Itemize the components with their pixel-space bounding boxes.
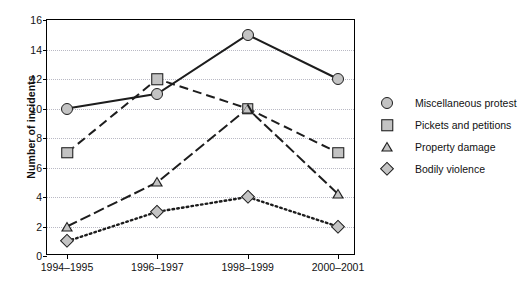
- y-axis-title: Number of incidents: [23, 47, 39, 207]
- y-tick-mark: [43, 138, 47, 139]
- y-tick-label: 8: [36, 132, 42, 144]
- y-tick-label: 12: [30, 73, 42, 85]
- legend-label: Miscellaneous protest: [415, 97, 517, 109]
- y-tick-label: 14: [30, 44, 42, 56]
- data-series-layer: [47, 20, 354, 254]
- series-line-square: [67, 79, 338, 153]
- data-point-triangle: [151, 177, 163, 187]
- legend-key-triangle-icon: [365, 140, 409, 154]
- y-tick-label: 6: [36, 162, 42, 174]
- y-tick-label: 16: [30, 14, 42, 26]
- y-tick-mark: [43, 168, 47, 169]
- data-point-square: [332, 147, 344, 159]
- x-tick-label: 2000–2001: [312, 261, 365, 273]
- legend-label: Property damage: [415, 141, 496, 153]
- legend-marker-diamond: [380, 162, 395, 177]
- x-tick-mark: [338, 254, 339, 259]
- data-point-triangle: [332, 189, 344, 199]
- legend-label: Pickets and petitions: [415, 119, 511, 131]
- figure-caption-text: [0, 279, 519, 287]
- legend-marker-triangle: [381, 142, 393, 152]
- chart-figure: Number of incidents 02468101214161994–19…: [0, 0, 519, 287]
- data-point-square: [61, 147, 73, 159]
- legend-item[interactable]: Miscellaneous protest: [365, 92, 519, 114]
- legend-label: Bodily violence: [415, 163, 485, 175]
- legend-item[interactable]: Property damage: [365, 136, 519, 158]
- legend-item[interactable]: Bodily violence: [365, 158, 519, 180]
- series-line-triangle: [67, 109, 338, 227]
- data-point-circle: [61, 103, 73, 115]
- x-tick-mark: [157, 254, 158, 259]
- chart-legend: Miscellaneous protestPickets and petitio…: [365, 92, 519, 180]
- plot-area: 02468101214161994–19951996–19971998–1999…: [46, 19, 355, 255]
- y-tick-mark: [43, 50, 47, 51]
- x-tick-label: 1994–1995: [41, 261, 94, 273]
- data-point-triangle: [61, 221, 73, 231]
- series-line-circle: [67, 35, 338, 109]
- legend-item[interactable]: Pickets and petitions: [365, 114, 519, 136]
- legend-key-circle-icon: [365, 96, 409, 110]
- data-point-square: [152, 73, 164, 85]
- series-lines: [47, 20, 356, 256]
- data-point-circle: [332, 73, 344, 85]
- legend-key-diamond-icon: [365, 162, 409, 176]
- data-point-triangle: [242, 103, 254, 113]
- legend-marker-circle: [381, 97, 393, 109]
- y-tick-label: 2: [36, 221, 42, 233]
- y-tick-mark: [43, 227, 47, 228]
- x-tick-mark: [67, 254, 68, 259]
- y-tick-mark: [43, 109, 47, 110]
- data-point-circle: [242, 29, 254, 41]
- y-tick-label: 4: [36, 191, 42, 203]
- y-tick-mark: [43, 256, 47, 257]
- y-tick-mark: [43, 20, 47, 21]
- y-tick-label: 10: [30, 103, 42, 115]
- series-line-diamond: [67, 197, 338, 241]
- y-tick-mark: [43, 79, 47, 80]
- figure-caption-clipped: [0, 279, 519, 287]
- x-tick-label: 1998–1999: [221, 261, 274, 273]
- legend-key-square-icon: [365, 118, 409, 132]
- legend-marker-square: [381, 119, 393, 131]
- x-tick-label: 1996–1997: [131, 261, 184, 273]
- x-tick-mark: [248, 254, 249, 259]
- y-tick-mark: [43, 197, 47, 198]
- data-point-circle: [151, 88, 163, 100]
